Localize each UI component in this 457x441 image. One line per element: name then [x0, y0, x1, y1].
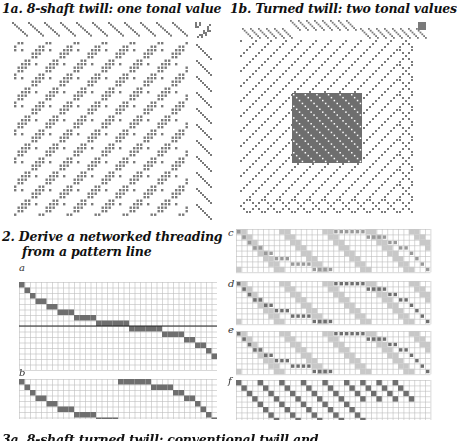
threading-grid-e	[236, 331, 432, 376]
threading-grid-c	[236, 229, 432, 274]
threading-grid-d	[236, 281, 432, 326]
caption-3-clipped: 3a. 8-shaft turned twill: conventional t…	[0, 432, 432, 441]
label-c: c	[228, 227, 234, 238]
label-a: a	[19, 262, 25, 273]
label-f: f	[228, 375, 232, 386]
turned-twill-drawdown-1b	[230, 20, 430, 220]
title-3: 3a. 8-shaft turned twill: conventional t…	[2, 432, 318, 441]
label-b: b	[19, 367, 25, 378]
threading-grid-b	[19, 379, 217, 419]
threading-grid-a	[19, 282, 217, 377]
label-d: d	[228, 278, 234, 289]
title-2-line2: from a pattern line	[22, 244, 151, 259]
twill-drawdown-1a	[10, 20, 220, 220]
title-1b: 1b. Turned twill: two tonal values	[230, 1, 457, 16]
label-e: e	[228, 324, 234, 335]
title-2-line1: 2. Derive a networked threading	[2, 229, 222, 244]
threading-grid-f	[236, 380, 432, 420]
title-1a: 1a. 8-shaft twill: one tonal value	[2, 1, 221, 16]
